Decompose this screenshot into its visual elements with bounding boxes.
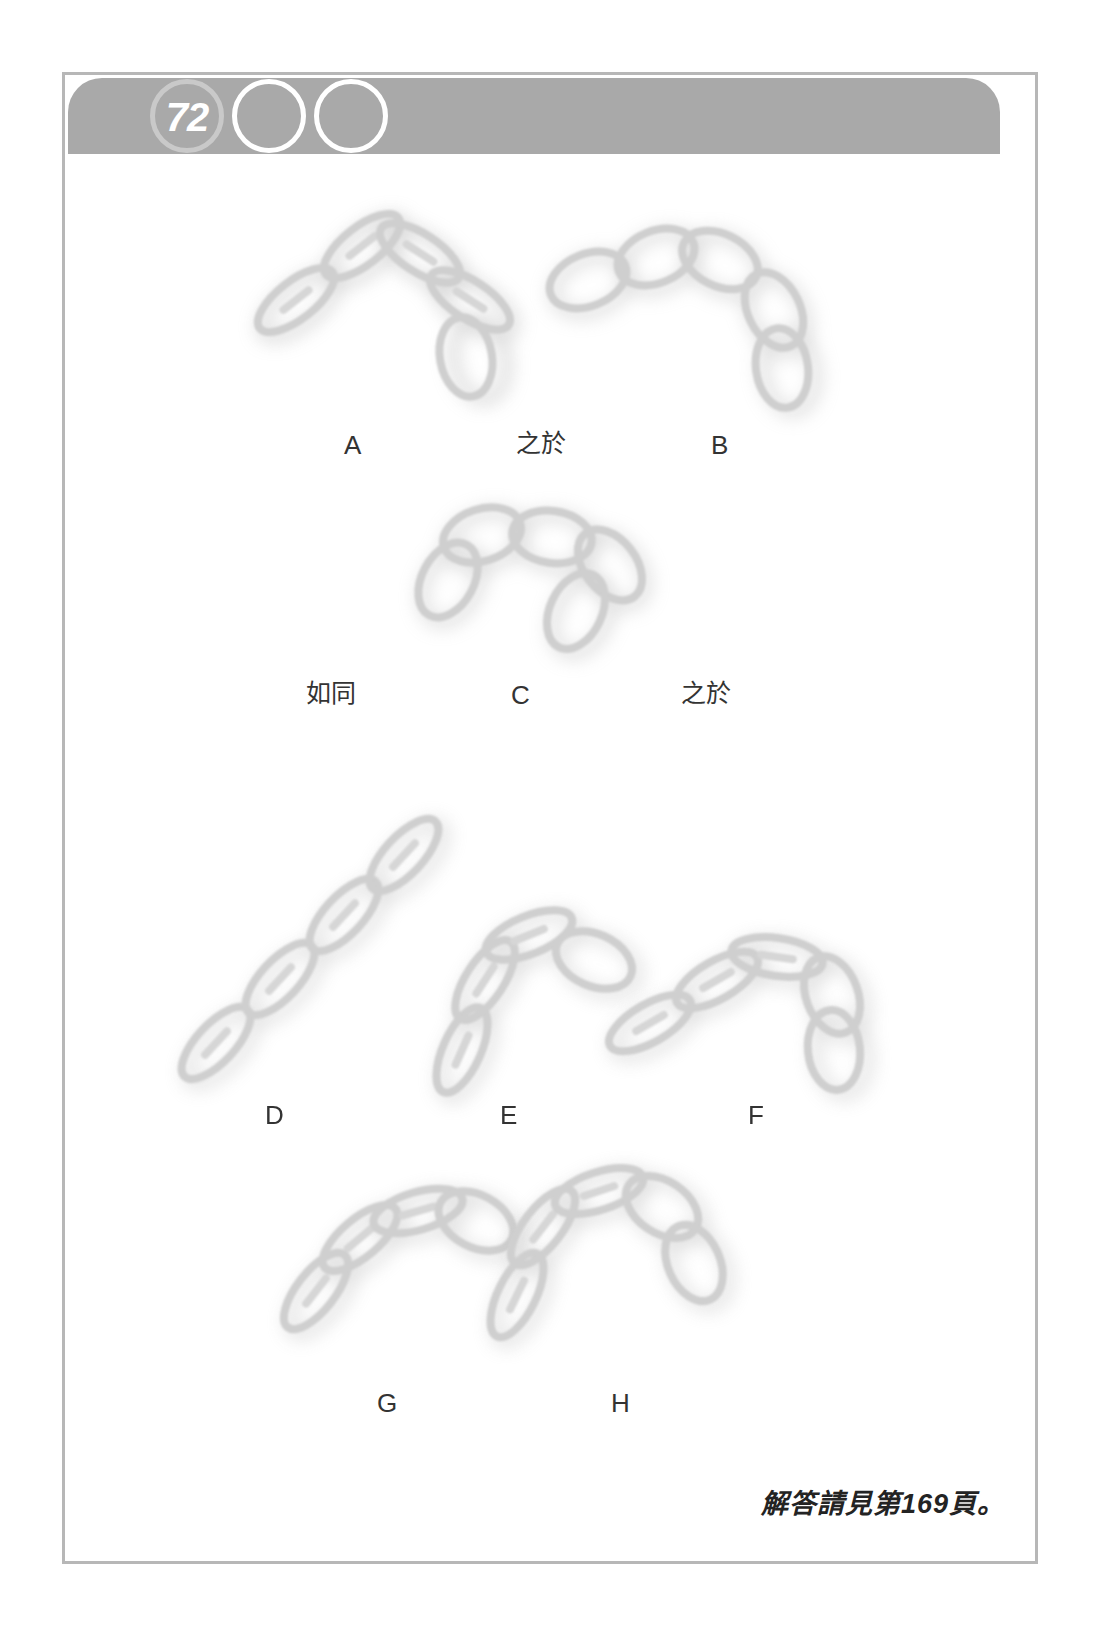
label-figure-a: A [344,432,361,458]
label-option-g[interactable]: G [377,1390,397,1416]
label-option-f[interactable]: F [748,1102,764,1128]
label-figure-c: C [511,682,530,708]
label-figure-b: B [711,432,728,458]
page-number-circle: 72 [150,79,224,153]
label-option-d[interactable]: D [265,1102,284,1128]
label-relation-is-to-2: 之於 [681,681,731,706]
label-option-h[interactable]: H [611,1390,630,1416]
header-circle-group: 72 [150,76,388,156]
label-option-e[interactable]: E [500,1102,517,1128]
answer-reference-note: 解答請見第169頁。 [761,1482,1005,1521]
label-relation-as: 如同 [306,681,356,706]
header-blank-circle-1 [232,79,306,153]
header-blank-circle-2 [314,79,388,153]
label-relation-is-to-1: 之於 [516,431,566,456]
puzzle-page: 72 [0,0,1105,1629]
page-frame [62,72,1038,1564]
page-number-label: 72 [166,97,209,137]
